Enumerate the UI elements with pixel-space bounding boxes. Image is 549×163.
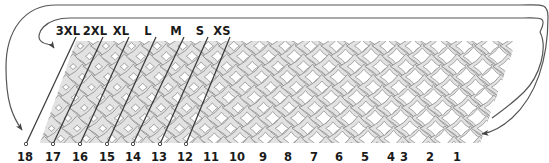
column-number-16: 16 <box>72 152 88 163</box>
mesh-body <box>3 33 540 163</box>
column-number-2: 2 <box>426 152 434 163</box>
size-label-xl: XL <box>113 26 129 38</box>
column-number-9: 9 <box>259 152 267 163</box>
size-label-xs: XS <box>213 26 230 38</box>
stent-mesh-diagram: 3XL2XLXLLMSXS 18171615141312111098765432… <box>0 0 549 163</box>
column-number-5: 5 <box>361 152 369 163</box>
size-label-3xl: 3XL <box>56 26 81 38</box>
column-number-18: 18 <box>17 152 33 163</box>
column-number-12: 12 <box>177 152 193 163</box>
size-label-m: M <box>170 26 182 38</box>
column-number-7: 7 <box>310 152 318 163</box>
column-number-11: 11 <box>203 152 219 163</box>
column-number-6: 6 <box>335 152 343 163</box>
column-number-13: 13 <box>151 152 167 163</box>
column-number-4: 4 <box>387 152 395 163</box>
column-number-15: 15 <box>99 152 115 163</box>
column-number-10: 10 <box>229 152 245 163</box>
column-number-14: 14 <box>125 152 141 163</box>
size-label-2xl: 2XL <box>83 26 108 38</box>
column-number-17: 17 <box>45 152 61 163</box>
column-number-1: 1 <box>453 152 461 163</box>
column-number-3: 3 <box>400 152 408 163</box>
column-number-8: 8 <box>284 152 292 163</box>
size-label-l: L <box>144 26 151 38</box>
size-label-s: S <box>196 26 204 38</box>
